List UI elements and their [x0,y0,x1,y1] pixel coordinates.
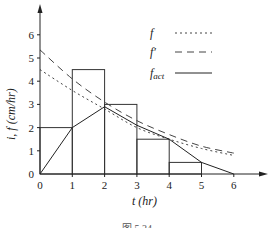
ticks: 01234560123456 [29,29,238,191]
x-tick-label: 4 [166,179,172,191]
y-tick-label: 0 [29,168,35,180]
rainfall-bar [169,162,201,174]
x-tick-label: 2 [102,179,108,191]
x-axis-arrow-icon [259,172,268,177]
y-tick-label: 6 [29,29,35,41]
y-tick-label: 3 [29,98,35,110]
x-tick-label: 0 [37,179,43,191]
y-tick-label: 4 [29,75,35,87]
y-tick-label: 1 [29,145,35,157]
x-tick-label: 6 [231,179,237,191]
x-tick-label: 5 [199,179,205,191]
y-axis-arrow-icon [38,4,43,13]
figure-caption: 图 5.24 [122,223,152,228]
legend-label-fprime: f′ [150,45,156,59]
rainfall-bar [105,104,137,174]
y-axis-label: i, f (cm/hr) [4,88,18,140]
rainfall-bar [72,70,104,174]
chart: 01234560123456 t (hr) i, f (cm/hr) f f′ … [0,0,273,228]
legend: f f′ fact [150,26,212,81]
x-tick-label: 3 [134,179,140,191]
y-tick-label: 5 [29,52,35,64]
legend-label-f: f [150,26,155,40]
rainfall-bar [137,139,169,174]
legend-label-fact: fact [150,66,165,81]
x-tick-label: 1 [70,179,76,191]
rainfall-bars [40,70,202,174]
y-tick-label: 2 [29,122,35,134]
x-axis-label: t (hr) [132,194,157,208]
